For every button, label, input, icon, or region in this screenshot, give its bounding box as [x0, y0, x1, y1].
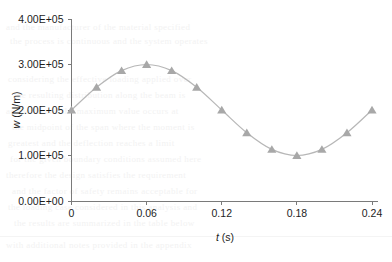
x-axis: 00.060.120.180.24 [69, 201, 383, 219]
data-point-marker [167, 66, 176, 74]
x-tick-labels: 00.060.120.180.24 [69, 207, 383, 219]
x-tick-label: 0.18 [287, 207, 308, 219]
data-point-marker [267, 145, 276, 153]
y-tick-label: 4.00E+05 [18, 13, 63, 25]
x-tick-label: 0 [69, 207, 75, 219]
y-tick-label: 0.00E+00 [18, 195, 63, 207]
x-tick-label: 0.06 [136, 207, 157, 219]
y-tick-label: 3.00E+05 [18, 58, 63, 70]
y-tick-label: 1.00E+05 [18, 149, 63, 161]
data-point-marker [367, 106, 376, 114]
y-tick-label: 2.00E+05 [18, 104, 63, 116]
x-tick-label: 0.12 [212, 207, 233, 219]
y-axis: 0.00E+001.00E+052.00E+053.00E+054.00E+05 [18, 13, 71, 207]
y-tick-labels: 0.00E+001.00E+052.00E+053.00E+054.00E+05 [18, 13, 63, 207]
chart-figure: and the manufacturer of the material spe… [0, 0, 392, 262]
x-tick-label: 0.24 [362, 207, 383, 219]
chart-plot-area: 0.00E+001.00E+052.00E+053.00E+054.00E+05… [0, 0, 392, 262]
data-point-marker [117, 66, 126, 74]
x-axis-title: t (s) [216, 231, 234, 243]
data-point-marker [317, 145, 326, 153]
y-axis-title: w (N/m) [10, 92, 22, 129]
